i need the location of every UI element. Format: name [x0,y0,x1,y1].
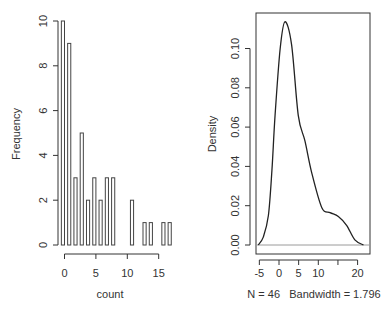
y-tick-label: 0.10 [229,38,241,59]
x-tick-label: 5 [296,267,302,279]
density-chart: 0.000.020.040.060.080.10-5051020N = 46 B… [0,0,391,314]
y-tick-label: 0.08 [229,77,241,98]
x-tick-label: -5 [254,267,264,279]
y-tick-label: 0.04 [229,156,241,177]
x-tick-label: 10 [312,267,324,279]
plot-box [256,13,370,254]
chart-canvas: 0246810051015countFrequency 0.000.020.04… [0,0,391,314]
y-tick-label: 0.02 [229,195,241,216]
y-tick-label: 0.06 [229,116,241,137]
y-axis-title: Density [206,115,218,152]
density-curve [258,22,363,245]
x-tick-label: 20 [351,267,363,279]
y-tick-label: 0.00 [229,234,241,255]
x-axis-title: N = 46 Bandwidth = 1.796 [247,288,380,300]
x-tick-label: 0 [276,267,282,279]
